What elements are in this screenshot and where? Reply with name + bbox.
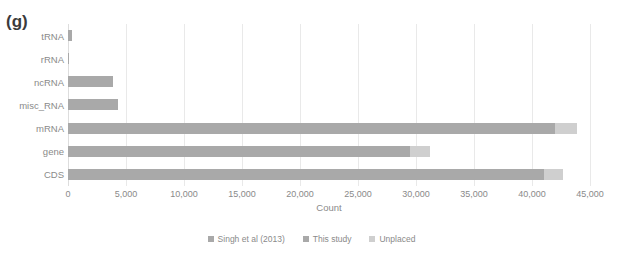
x-tick-label: 30,000	[402, 189, 430, 199]
gridline	[590, 24, 591, 186]
bar-row	[68, 93, 118, 116]
x-tick-label: 5,000	[115, 189, 138, 199]
category-label-tRNA: tRNA	[2, 30, 64, 41]
x-tick-label: 15,000	[228, 189, 256, 199]
legend-swatch-icon	[303, 236, 309, 242]
category-label-mRNA: mRNA	[2, 123, 64, 134]
bar-CDS	[68, 169, 563, 180]
gridline	[532, 24, 533, 186]
bar-gene	[68, 146, 430, 157]
bar-misc_RNA	[68, 99, 118, 110]
category-label-misc_RNA: misc_RNA	[2, 100, 64, 111]
bar-segment-main	[68, 53, 69, 64]
legend-swatch-icon	[208, 236, 214, 242]
x-tick-label: 0	[65, 189, 70, 199]
category-label-rRNA: rRNA	[2, 53, 64, 64]
category-label-CDS: CDS	[2, 169, 64, 180]
bar-row	[68, 24, 72, 47]
bar-segment-unplaced	[544, 169, 564, 180]
chart-legend: Singh et al (2013)This studyUnplaced	[0, 234, 623, 244]
bar-row	[68, 117, 577, 140]
legend-swatch-icon	[369, 236, 375, 242]
bar-tRNA	[68, 30, 72, 41]
category-label-ncRNA: ncRNA	[2, 76, 64, 87]
y-axis-category-labels: tRNArRNAncRNAmisc_RNAmRNAgeneCDS	[0, 24, 64, 186]
x-tick-label: 35,000	[460, 189, 488, 199]
legend-label: Unplaced	[379, 234, 415, 244]
legend-label: Singh et al (2013)	[218, 234, 285, 244]
gridline	[474, 24, 475, 186]
legend-label: This study	[313, 234, 352, 244]
bar-segment-main	[68, 146, 410, 157]
bar-row	[68, 47, 69, 70]
bar-segment-main	[68, 99, 118, 110]
bar-rRNA	[68, 53, 69, 64]
bar-segment-unplaced	[410, 146, 430, 157]
x-tick-label: 45,000	[576, 189, 604, 199]
x-tick-label: 20,000	[286, 189, 314, 199]
bar-row	[68, 140, 430, 163]
bar-segment-main	[68, 30, 72, 41]
bar-segment-main	[68, 123, 555, 134]
x-axis-title: Count	[68, 202, 590, 213]
bar-ncRNA	[68, 76, 113, 87]
bar-segment-main	[68, 169, 544, 180]
legend-item[interactable]: Singh et al (2013)	[208, 234, 285, 244]
legend-item[interactable]: Unplaced	[369, 234, 415, 244]
x-tick-label: 25,000	[344, 189, 372, 199]
bar-row	[68, 70, 113, 93]
legend-item[interactable]: This study	[303, 234, 352, 244]
x-axis-tick-labels: 05,00010,00015,00020,00025,00030,00035,0…	[68, 186, 590, 202]
bar-segment-main	[68, 76, 113, 87]
bar-row	[68, 163, 563, 186]
plot-area	[68, 24, 590, 186]
x-tick-label: 10,000	[170, 189, 198, 199]
x-tick-label: 40,000	[518, 189, 546, 199]
category-label-gene: gene	[2, 146, 64, 157]
bar-mRNA	[68, 123, 577, 134]
bar-segment-unplaced	[555, 123, 577, 134]
figure-panel-g: (g) tRNArRNAncRNAmisc_RNAmRNAgeneCDS 05,…	[0, 0, 623, 258]
